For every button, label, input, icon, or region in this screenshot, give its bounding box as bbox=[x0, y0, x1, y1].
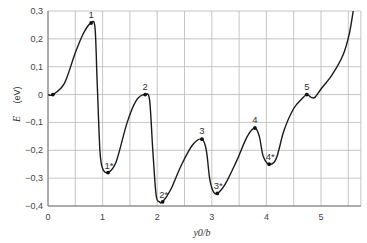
point-label: 2 bbox=[143, 81, 148, 92]
point-label: 5 bbox=[304, 81, 309, 92]
point-label: 4 bbox=[252, 114, 257, 125]
y-tick-label: −0,3 bbox=[25, 173, 43, 183]
point-label: 4* bbox=[266, 151, 275, 162]
point-label: 1* bbox=[105, 160, 114, 171]
energy-chart: 0,30,20,10−0,1−0,2−0,3−0,4 012345 11*22*… bbox=[0, 0, 367, 243]
data-point-marker bbox=[200, 137, 204, 141]
x-tick-label: 0 bbox=[45, 212, 50, 222]
data-point-marker bbox=[267, 162, 271, 166]
x-tick-labels: 012345 bbox=[45, 212, 323, 222]
point-label: 3 bbox=[199, 125, 204, 136]
data-point-marker bbox=[305, 93, 309, 97]
data-point-marker bbox=[89, 21, 93, 25]
y-tick-label: −0,2 bbox=[25, 145, 43, 155]
grid-lines bbox=[48, 11, 361, 206]
x-tick-label: 5 bbox=[318, 212, 323, 222]
y-tick-label: −0,4 bbox=[25, 201, 43, 211]
axes bbox=[48, 11, 361, 206]
point-label: 1 bbox=[88, 9, 93, 20]
y-tick-label: 0,2 bbox=[30, 34, 43, 44]
data-point-marker bbox=[253, 126, 257, 130]
data-point-marker bbox=[51, 93, 55, 97]
x-tick-label: 2 bbox=[155, 212, 160, 222]
y-tick-labels: 0,30,20,10−0,1−0,2−0,3−0,4 bbox=[25, 6, 43, 211]
x-tick-label: 1 bbox=[100, 212, 105, 222]
y-tick-label: 0 bbox=[38, 90, 43, 100]
y-tick-label: −0,1 bbox=[25, 117, 43, 127]
energy-curve bbox=[48, 11, 353, 203]
marked-points: 11*22*33*44*5 bbox=[51, 9, 309, 204]
point-label: 3* bbox=[214, 180, 223, 191]
y-tick-label: 0,1 bbox=[30, 62, 43, 72]
y-axis-title: E (eV) bbox=[11, 86, 22, 123]
x-tick-label: 3 bbox=[209, 212, 214, 222]
data-point-marker bbox=[161, 200, 165, 204]
x-axis-label: y0/b bbox=[192, 227, 210, 238]
data-point-marker bbox=[143, 93, 147, 97]
data-point-marker bbox=[106, 171, 110, 175]
y-tick-label: 0,3 bbox=[30, 6, 43, 16]
y-axis-label: E bbox=[11, 116, 22, 123]
y-axis-unit: (eV) bbox=[12, 86, 22, 103]
point-label: 2* bbox=[159, 189, 168, 200]
data-point-marker bbox=[215, 192, 219, 196]
x-tick-label: 4 bbox=[264, 212, 269, 222]
